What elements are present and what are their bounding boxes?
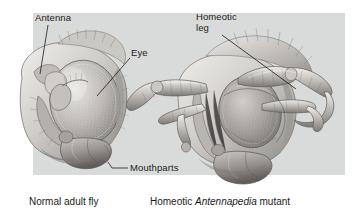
mutant-maxillary-palp [212,145,225,156]
label-homeotic-leg-line1: Homeotic [196,12,237,23]
label-homeotic-leg: Homeotic leg [196,12,237,33]
caption-right-prefix: Homeotic [150,196,195,207]
caption-right-italic-genename: Antennapedia [195,196,257,207]
homeotic-leg-left-joint [151,81,163,93]
label-homeotic-leg-line2: leg [196,23,237,34]
illustration-artwork [0,0,353,214]
caption-right-suffix: mutant [257,196,290,207]
caption-antennapedia-mutant: Homeotic Antennapedia mutant [150,196,290,208]
homeotic-leg-left-lower-claw [182,142,191,152]
caption-normal-adult-fly: Normal adult fly [29,196,98,208]
normal-fly-head [20,29,130,169]
label-antenna: Antenna [35,13,71,24]
label-mouthparts: Mouthparts [130,163,179,174]
leader-line-mouthparts [108,162,128,168]
antennapedia-mutant-head [126,28,333,184]
figure-antennapedia-comparison: Antenna Eye Homeotic leg Mouthparts Norm… [0,0,353,214]
label-eye: Eye [131,48,148,59]
maxillary-palp [59,131,73,143]
homeotic-leg-right-joint [285,68,297,81]
homeotic-leg-right-lower-tarsus [306,106,323,132]
